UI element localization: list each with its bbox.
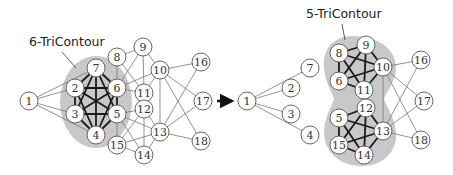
- node-label: 4: [307, 129, 314, 142]
- node-label: 15: [332, 139, 346, 152]
- node-label: 12: [137, 103, 151, 116]
- node-label: 10: [376, 61, 390, 74]
- node-label: 2: [288, 82, 295, 95]
- node-label: 7: [307, 62, 314, 75]
- graph-node-15: 15: [108, 136, 126, 154]
- graph-node-7: 7: [87, 59, 105, 77]
- graph-node-12: 12: [357, 99, 375, 117]
- graph-node-14: 14: [355, 146, 373, 164]
- node-label: 8: [336, 47, 343, 60]
- node-label: 16: [194, 56, 208, 69]
- node-label: 17: [196, 95, 210, 108]
- graph-node-5: 5: [108, 105, 126, 123]
- right-contour-label: 5-TriContour: [306, 6, 382, 21]
- graph-node-10: 10: [374, 58, 392, 76]
- node-label: 5: [336, 112, 343, 125]
- graph-node-9: 9: [134, 38, 152, 56]
- node-label: 3: [72, 108, 79, 121]
- graph-node-18: 18: [192, 132, 210, 150]
- graph-node-14: 14: [135, 146, 153, 164]
- graph-node-2: 2: [282, 79, 300, 97]
- node-label: 15: [110, 139, 124, 152]
- node-label: 10: [153, 64, 167, 77]
- node-label: 9: [140, 41, 147, 54]
- node-label: 18: [414, 134, 428, 147]
- node-label: 17: [417, 95, 431, 108]
- node-label: 14: [137, 149, 151, 162]
- graph-node-16: 16: [412, 51, 430, 69]
- graph-node-1: 1: [20, 92, 38, 110]
- graph-node-17: 17: [415, 92, 433, 110]
- node-label: 2: [72, 82, 79, 95]
- graph-node-11: 11: [135, 84, 153, 102]
- node-label: 16: [414, 54, 428, 67]
- graph-node-8: 8: [330, 44, 348, 62]
- graph-node-13: 13: [374, 122, 392, 140]
- graph-node-5: 5: [330, 109, 348, 127]
- graph-node-3: 3: [282, 105, 300, 123]
- graph-node-10: 10: [151, 61, 169, 79]
- edge-1-4: [247, 101, 310, 135]
- node-label: 4: [93, 129, 100, 142]
- right-contour-label-group: 5-TriContour: [306, 6, 382, 40]
- node-label: 6: [336, 75, 343, 88]
- graph-node-8: 8: [108, 48, 126, 66]
- graph-node-6: 6: [330, 72, 348, 90]
- node-label: 12: [359, 102, 373, 115]
- node-label: 14: [357, 149, 371, 162]
- node-label: 11: [137, 87, 151, 100]
- graph-node-4: 4: [87, 126, 105, 144]
- graph-node-18: 18: [412, 131, 430, 149]
- graph-node-7: 7: [301, 59, 319, 77]
- graph-node-9: 9: [357, 36, 375, 54]
- graph-node-16: 16: [192, 53, 210, 71]
- graph-node-15: 15: [330, 136, 348, 154]
- graph-node-3: 3: [66, 105, 84, 123]
- graph-node-13: 13: [151, 123, 169, 141]
- graph-node-6: 6: [108, 79, 126, 97]
- graph-node-12: 12: [135, 100, 153, 118]
- node-label: 5: [114, 108, 121, 121]
- node-label: 13: [376, 125, 390, 138]
- node-label: 11: [357, 84, 371, 97]
- node-label: 13: [153, 126, 167, 139]
- node-label: 8: [114, 51, 121, 64]
- node-label: 7: [93, 62, 100, 75]
- left-label-pointer: [62, 52, 76, 68]
- graph-node-2: 2: [66, 79, 84, 97]
- graph-node-17: 17: [194, 92, 212, 110]
- tricontour-diagram: 123456789101112131415161718 172348910611…: [0, 0, 453, 175]
- node-label: 9: [363, 39, 370, 52]
- edge-1-7: [247, 68, 310, 101]
- node-label: 18: [194, 135, 208, 148]
- left-contour-label: 6-TriContour: [29, 34, 105, 49]
- graph-node-11: 11: [355, 81, 373, 99]
- node-label: 6: [114, 82, 121, 95]
- node-label: 1: [26, 95, 33, 108]
- graph-node-1: 1: [238, 92, 256, 110]
- node-label: 1: [244, 95, 251, 108]
- graph-node-4: 4: [301, 126, 319, 144]
- node-label: 3: [288, 108, 295, 121]
